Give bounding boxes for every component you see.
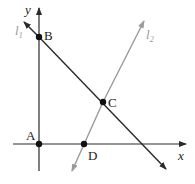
label-d: D xyxy=(88,148,97,163)
point-b xyxy=(36,34,42,40)
label-l2: l2 xyxy=(146,27,154,44)
label-c: C xyxy=(108,95,117,110)
diagram-svg: A B C D x y l1 l2 xyxy=(0,0,195,184)
geometry-diagram: A B C D x y l1 l2 xyxy=(0,0,195,184)
label-a: A xyxy=(26,128,36,143)
label-x-axis: x xyxy=(177,148,184,163)
point-d xyxy=(81,141,87,147)
label-y-axis: y xyxy=(23,2,31,17)
line-l2 xyxy=(103,21,144,102)
label-l1: l1 xyxy=(15,23,23,40)
point-a xyxy=(36,141,42,147)
point-c xyxy=(100,99,106,105)
label-b: B xyxy=(44,28,53,43)
